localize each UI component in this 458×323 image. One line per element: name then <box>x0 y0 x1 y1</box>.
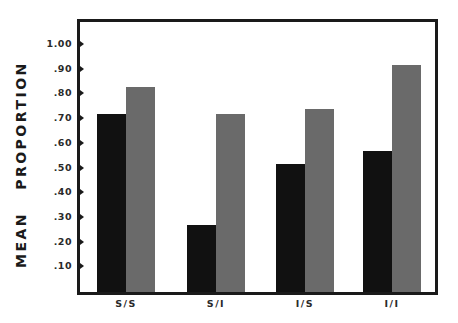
x-tick-label: I/I <box>362 298 422 309</box>
y-tick-mark <box>80 90 84 96</box>
y-tick-mark <box>80 41 84 47</box>
y-tick-mark <box>80 263 84 269</box>
y-tick-mark <box>80 214 84 220</box>
y-tick-label: .30 <box>36 211 72 222</box>
x-tick-label: S/I <box>186 298 246 309</box>
bar-s-i-dark <box>187 225 216 292</box>
bar-s-s-dark <box>97 114 126 292</box>
y-tick-mark <box>80 66 84 72</box>
bar-i-s-light <box>305 109 334 292</box>
y-tick-label: .70 <box>36 112 72 123</box>
bar-i-i-dark <box>363 151 392 292</box>
y-tick-mark <box>80 165 84 171</box>
bar-s-s-light <box>126 87 155 292</box>
y-axis-title: MEAN PROPORTION <box>13 68 33 268</box>
y-tick-mark <box>80 189 84 195</box>
y-tick-label: .60 <box>36 137 72 148</box>
x-tick-label: I/S <box>275 298 335 309</box>
y-tick-mark <box>80 115 84 121</box>
bar-i-s-dark <box>276 164 305 292</box>
y-tick-label: .80 <box>36 87 72 98</box>
x-tick-label: S/S <box>96 298 156 309</box>
bar-i-i-light <box>392 65 421 292</box>
y-tick-label: .50 <box>36 162 72 173</box>
y-tick-label: .20 <box>36 236 72 247</box>
y-tick-label: .10 <box>36 260 72 271</box>
y-tick-label: .90 <box>36 63 72 74</box>
bar-s-i-light <box>216 114 245 292</box>
y-tick-mark <box>80 239 84 245</box>
y-tick-mark <box>80 140 84 146</box>
y-tick-label: .40 <box>36 186 72 197</box>
y-tick-label: 1.00 <box>36 38 72 49</box>
